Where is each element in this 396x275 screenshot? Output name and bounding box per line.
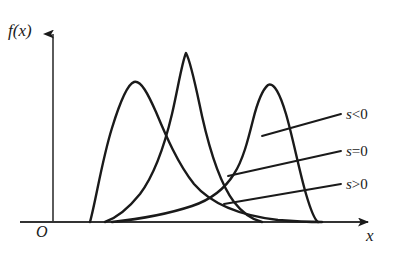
series-relation-s-zero: =0 <box>352 143 368 159</box>
series-relation-s-positive: >0 <box>352 176 368 192</box>
plot-canvas <box>0 0 396 275</box>
origin-label: O <box>36 224 48 240</box>
leader-line-s-zero <box>228 151 341 176</box>
leader-line-s-positive <box>224 184 341 204</box>
skewness-figure: f(x) x O s<0 s=0 s>0 <box>0 0 396 275</box>
x-axis-label: x <box>366 227 374 244</box>
series-label-s-negative: s<0 <box>346 107 368 122</box>
series-label-s-positive: s>0 <box>346 177 368 192</box>
y-axis-label: f(x) <box>8 22 32 39</box>
leader-line-s-negative <box>262 114 341 136</box>
series-relation-s-negative: <0 <box>352 106 368 122</box>
series-label-s-zero: s=0 <box>346 144 368 159</box>
curve-s-zero <box>105 53 262 222</box>
